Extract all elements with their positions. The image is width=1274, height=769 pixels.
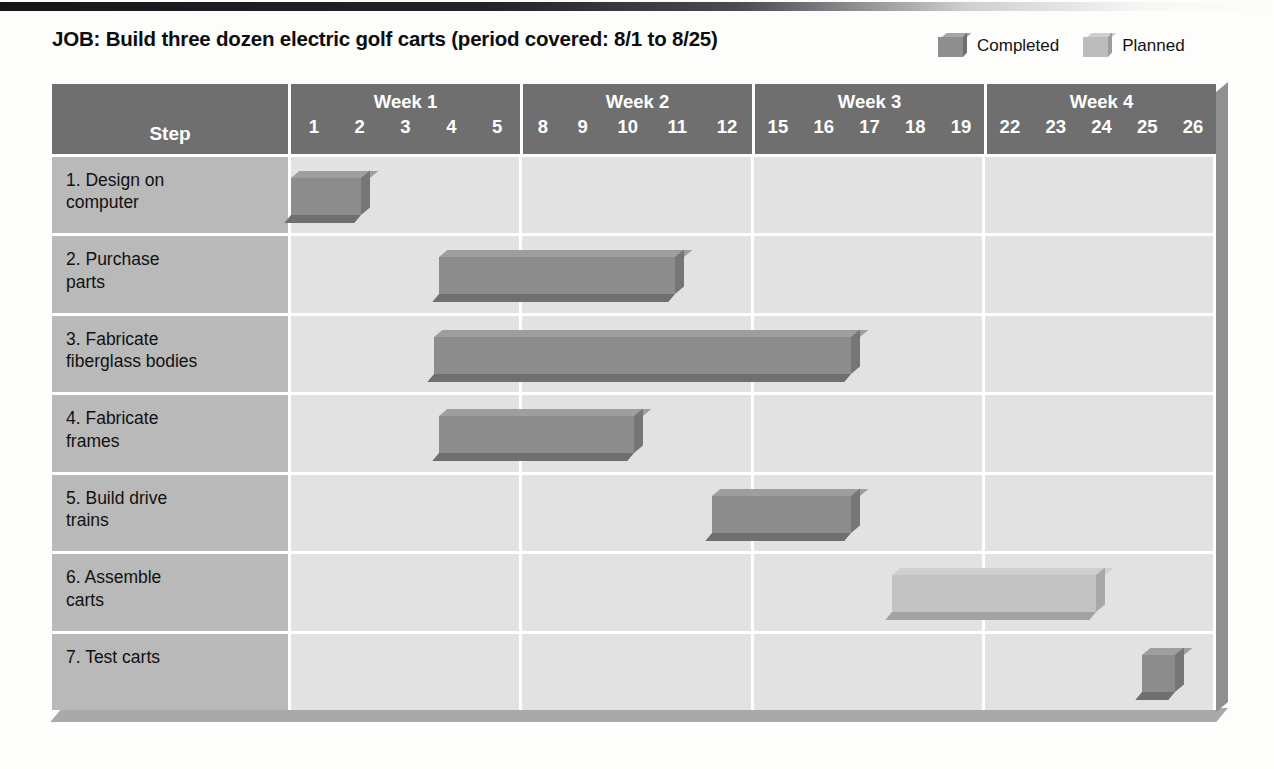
- header-week-days: 2223242526: [987, 116, 1216, 138]
- gantt-row-track: [291, 554, 1216, 630]
- bar-top: [439, 409, 651, 416]
- gantt-week-column-4: [985, 316, 1216, 392]
- bar-side: [1096, 568, 1105, 613]
- bar-side: [634, 409, 643, 454]
- gantt-week-column-3: [754, 157, 985, 233]
- gantt-row-track: [291, 395, 1216, 471]
- header-step-column: Step: [52, 84, 291, 154]
- gantt-bar-step-1[interactable]: [291, 171, 370, 215]
- header-week-3: Week 31516171819: [755, 84, 987, 154]
- gantt-week-column-4: [985, 475, 1216, 551]
- bar-face: [1142, 655, 1175, 692]
- header-day-15: 15: [768, 116, 789, 138]
- gantt-bar-step-2[interactable]: [439, 250, 684, 294]
- bar-top: [434, 330, 868, 337]
- bar-face: [439, 257, 675, 294]
- completed-swatch-icon: [938, 33, 968, 59]
- header-day-23: 23: [1045, 116, 1066, 138]
- header-week-days: 1516171819: [755, 116, 984, 138]
- header-day-9: 9: [578, 116, 588, 138]
- gantt-bar-step-7[interactable]: [1142, 648, 1184, 692]
- gantt-row-label-3: 3. Fabricate fiberglass bodies: [52, 316, 291, 392]
- gantt-week-column-1: [291, 554, 522, 630]
- gantt-row-track: [291, 475, 1216, 551]
- legend: Completed Planned: [938, 33, 1185, 59]
- header-day-17: 17: [859, 116, 880, 138]
- chart-shadow-right: [1216, 82, 1228, 712]
- planned-swatch-icon: [1083, 33, 1113, 59]
- gantt-week-column-2: [522, 554, 753, 630]
- legend-label-completed: Completed: [977, 36, 1059, 56]
- legend-item-planned: Planned: [1083, 33, 1184, 59]
- header-week-name: Week 3: [838, 91, 901, 113]
- bar-face: [439, 416, 634, 453]
- gantt-row-label-6: 6. Assemble carts: [52, 554, 291, 630]
- gantt-week-column-3: [754, 634, 985, 710]
- header-week-name: Week 4: [1070, 91, 1133, 113]
- gantt-week-column-4: [985, 236, 1216, 312]
- header-week-name: Week 1: [374, 91, 437, 113]
- gantt-week-column-1: [291, 634, 522, 710]
- header-week-days: 12345: [291, 116, 520, 138]
- header-day-22: 22: [1000, 116, 1021, 138]
- legend-item-completed: Completed: [938, 33, 1059, 59]
- gantt-row: 3. Fabricate fiberglass bodies: [52, 313, 1216, 392]
- gantt-bar-step-4[interactable]: [439, 409, 643, 453]
- bar-base: [428, 374, 851, 382]
- page-title: JOB: Build three dozen electric golf car…: [52, 27, 718, 51]
- header-step-label: Step: [149, 123, 190, 145]
- bar-side: [361, 170, 370, 215]
- header-day-18: 18: [905, 116, 926, 138]
- legend-label-planned: Planned: [1122, 36, 1184, 56]
- gantt-week-column-4: [985, 157, 1216, 233]
- header-day-3: 3: [400, 116, 410, 138]
- gantt-row-label-7: 7. Test carts: [52, 634, 291, 710]
- header-week-4: Week 42223242526: [987, 84, 1216, 154]
- gantt-header-row: Step Week 112345Week 289101112Week 31516…: [52, 84, 1216, 154]
- gantt-bar-step-3[interactable]: [434, 330, 860, 374]
- header-day-12: 12: [717, 116, 738, 138]
- header-week-days: 89101112: [523, 116, 752, 138]
- header-day-10: 10: [617, 116, 638, 138]
- header-week-2: Week 289101112: [523, 84, 755, 154]
- header-day-26: 26: [1183, 116, 1204, 138]
- gantt-row-track: [291, 316, 1216, 392]
- bar-top: [712, 489, 868, 496]
- gantt-row-label-4: 4. Fabricate frames: [52, 395, 291, 471]
- gantt-row: 4. Fabricate frames: [52, 392, 1216, 471]
- bar-base: [432, 453, 633, 461]
- gantt-week-column-2: [522, 157, 753, 233]
- gantt-week-column-2: [522, 634, 753, 710]
- bar-side: [675, 250, 684, 295]
- bar-side: [851, 329, 860, 374]
- page-top-band: [0, 2, 1274, 11]
- gantt-week-column-1: [291, 475, 522, 551]
- header-week-1: Week 112345: [291, 84, 523, 154]
- header-week-name: Week 2: [606, 91, 669, 113]
- bar-base: [886, 612, 1096, 620]
- bar-base: [284, 215, 360, 223]
- bar-base: [705, 533, 851, 541]
- gantt-week-column-3: [754, 236, 985, 312]
- bar-top: [439, 250, 692, 257]
- gantt-bar-step-6[interactable]: [892, 568, 1105, 612]
- header-day-16: 16: [813, 116, 834, 138]
- header-day-5: 5: [492, 116, 502, 138]
- header-day-8: 8: [538, 116, 548, 138]
- gantt-week-column-3: [754, 395, 985, 471]
- chart-shadow-bottom: [50, 708, 1228, 722]
- bar-top: [1142, 648, 1192, 655]
- header-day-11: 11: [668, 116, 688, 138]
- bar-base: [1135, 692, 1174, 700]
- gantt-row-label-1: 1. Design on computer: [52, 157, 291, 233]
- gantt-chart: Step Week 112345Week 289101112Week 31516…: [52, 84, 1226, 718]
- header-day-19: 19: [951, 116, 972, 138]
- gantt-bar-step-5[interactable]: [712, 489, 860, 533]
- header-day-4: 4: [446, 116, 456, 138]
- gantt-grid: Step Week 112345Week 289101112Week 31516…: [52, 84, 1216, 710]
- gantt-row-label-5: 5. Build drive trains: [52, 475, 291, 551]
- header-day-1: 1: [309, 116, 319, 138]
- gantt-row-track: [291, 634, 1216, 710]
- header-day-25: 25: [1137, 116, 1158, 138]
- gantt-row: 6. Assemble carts: [52, 551, 1216, 630]
